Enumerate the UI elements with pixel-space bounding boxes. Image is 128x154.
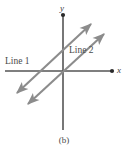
x-axis [5, 69, 114, 73]
x-axis-label: x [117, 66, 121, 75]
line-2-label: Line 2 [69, 46, 94, 56]
figure-caption: (b) [0, 136, 128, 145]
figure-panel: y x Line 1 Line 2 (b) [0, 0, 128, 154]
y-axis-label: y [60, 4, 64, 13]
line-1-label: Line 1 [5, 57, 30, 67]
y-axis-end-dot [61, 13, 65, 17]
x-axis-end-dot [110, 69, 114, 73]
figure-canvas [0, 0, 128, 154]
